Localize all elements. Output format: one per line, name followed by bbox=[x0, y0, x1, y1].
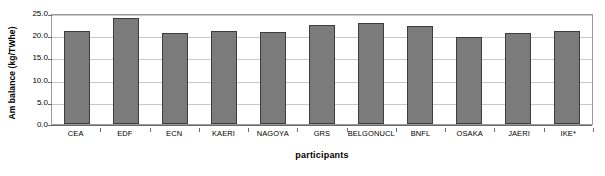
y-tick-label: 10.0 bbox=[18, 77, 48, 85]
x-tick-label: EDF bbox=[100, 128, 149, 142]
x-tick-mark bbox=[150, 128, 151, 132]
y-tick-label: 25.0 bbox=[18, 10, 48, 18]
x-tick-mark bbox=[544, 128, 545, 132]
x-tick-mark bbox=[100, 128, 101, 132]
bar-slot bbox=[543, 15, 592, 124]
bar[interactable] bbox=[162, 33, 188, 124]
bar-slot bbox=[347, 15, 396, 124]
plot-area bbox=[51, 14, 593, 125]
bar-slot bbox=[248, 15, 297, 124]
x-tick-mark bbox=[347, 128, 348, 132]
x-tick-mark bbox=[445, 128, 446, 132]
bar[interactable] bbox=[554, 31, 580, 124]
x-tick-label: OSAKA bbox=[445, 128, 494, 142]
bar[interactable] bbox=[358, 23, 384, 124]
axis-baseline bbox=[52, 125, 592, 126]
bar-slot bbox=[297, 15, 346, 124]
bar-chart-figure: Am balance (kg/TWhe) 0.05.010.015.020.02… bbox=[0, 0, 605, 176]
x-tick-label: JAERI bbox=[494, 128, 543, 142]
x-tick-label: GRS bbox=[297, 128, 346, 142]
y-tick-label: 5.0 bbox=[18, 99, 48, 107]
x-tick-mark bbox=[494, 128, 495, 132]
x-tick-mark bbox=[297, 128, 298, 132]
x-tick-label: NAGOYA bbox=[248, 128, 297, 142]
x-tick-label: CEA bbox=[51, 128, 100, 142]
x-tick-label: BNFL bbox=[396, 128, 445, 142]
bar[interactable] bbox=[407, 26, 433, 124]
bar-slot bbox=[445, 15, 494, 124]
bar-slot bbox=[150, 15, 199, 124]
bars-layer bbox=[52, 15, 592, 124]
bar-slot bbox=[199, 15, 248, 124]
bar[interactable] bbox=[309, 25, 335, 124]
x-tick-label: KAERI bbox=[199, 128, 248, 142]
x-axis-tick-labels: CEAEDFECNKAERINAGOYAGRSBELGONUCLBNFLOSAK… bbox=[51, 128, 593, 142]
bar-slot bbox=[52, 15, 101, 124]
bar-slot bbox=[494, 15, 543, 124]
y-tick-label: 0.0 bbox=[18, 121, 48, 129]
y-tick-label: 20.0 bbox=[18, 32, 48, 40]
bar[interactable] bbox=[260, 32, 286, 124]
x-tick-mark bbox=[396, 128, 397, 132]
bar[interactable] bbox=[456, 37, 482, 124]
bar[interactable] bbox=[113, 18, 139, 124]
x-tick-mark bbox=[199, 128, 200, 132]
x-tick-label: IKE* bbox=[544, 128, 593, 142]
x-tick-label: ECN bbox=[150, 128, 199, 142]
y-tick-mark bbox=[48, 125, 52, 126]
bar-slot bbox=[101, 15, 150, 124]
bar-slot bbox=[396, 15, 445, 124]
x-tick-mark bbox=[593, 128, 594, 132]
x-axis-title: participants bbox=[51, 150, 593, 160]
x-tick-label: BELGONUCL bbox=[347, 128, 396, 142]
y-tick-label: 15.0 bbox=[18, 54, 48, 62]
bar[interactable] bbox=[505, 33, 531, 124]
x-tick-mark bbox=[248, 128, 249, 132]
y-axis-tick-labels: 0.05.010.015.020.025.0 bbox=[18, 14, 48, 125]
bar[interactable] bbox=[211, 31, 237, 124]
bar[interactable] bbox=[64, 31, 90, 124]
